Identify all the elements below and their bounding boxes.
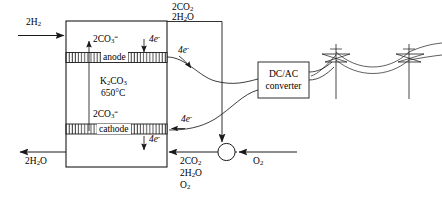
recycle-oxygen-label: O2 [180, 181, 190, 191]
converter-label-line2: converter [258, 81, 309, 91]
power-line-lead-in [311, 55, 336, 76]
top-outlet-water-label: 2H2O [172, 13, 194, 23]
carbonate-cathode-label: 2CO3= [93, 108, 118, 120]
outlet-water-label: 2H2O [25, 157, 47, 167]
cathode-electron-out-label: 4e- [149, 133, 160, 145]
cathode-electron-in-label: 4e- [181, 113, 192, 125]
cathode-label: cathode [97, 124, 131, 134]
air-oxygen-label: O2 [253, 157, 263, 167]
mixer-junction-circle [218, 143, 235, 160]
power-line-span-2-upper [409, 43, 442, 52]
anode-electron-out-label: 4e- [178, 44, 189, 56]
diagram-vector-layer [0, 0, 442, 206]
recycle-co2-label: 2CO2 [180, 157, 201, 167]
fuel-cell-diagram: 2H2 2H2O 2CO2 2H2O 2CO3= 2CO3= 4e- 4e- 4… [0, 0, 442, 206]
anode-to-converter-curve [167, 57, 258, 83]
dc-ac-converter-box [258, 62, 309, 98]
power-line-span-2-lower [409, 55, 442, 60]
temperature-label: 650°C [101, 89, 125, 99]
recycle-water-label: 2H2O [180, 169, 202, 179]
anode-electron-curve-arrowhead [179, 56, 191, 68]
carbonate-anode-label: 2CO3= [93, 33, 118, 45]
inlet-fuel-label: 2H2 [26, 18, 41, 28]
converter-label-line1: DC/AC [258, 69, 309, 79]
anode-label: anode [101, 52, 128, 62]
anode-electron-in-label: 4e- [149, 33, 160, 45]
transmission-tower-2-icon [396, 44, 424, 99]
electrolyte-formula-label: K2CO3 [100, 77, 127, 87]
